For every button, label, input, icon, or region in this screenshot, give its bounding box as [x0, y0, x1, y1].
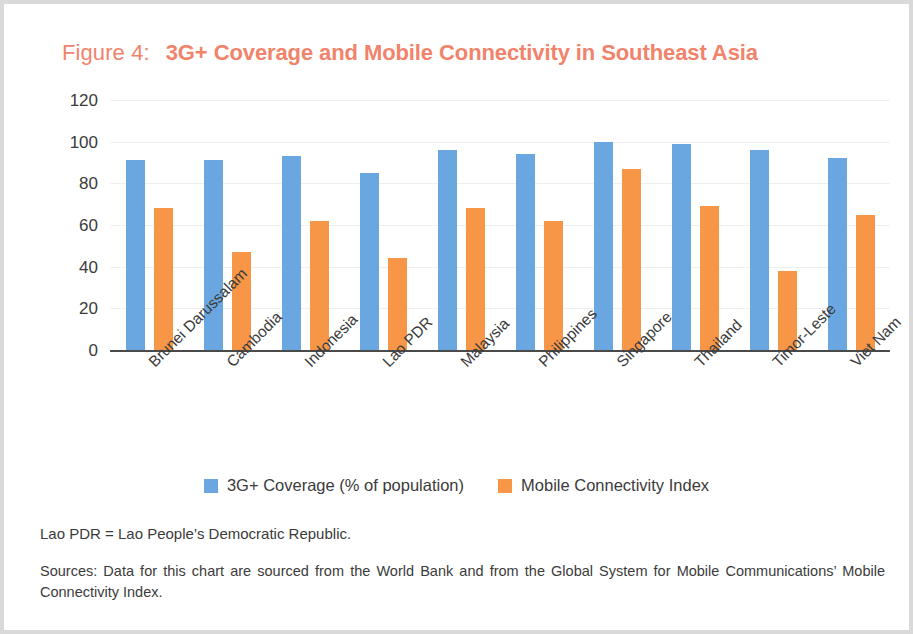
bar-connectivity[interactable]: [466, 208, 485, 350]
x-axis-label-slot: Lao PDR: [344, 352, 422, 470]
figure-border-top: [0, 0, 913, 4]
bar-group: [344, 100, 422, 350]
bar-groups: [110, 100, 890, 350]
y-axis-tick-0: 0: [89, 342, 98, 359]
y-axis-tick-40: 40: [79, 258, 98, 275]
figure-border-left: [0, 0, 4, 634]
y-axis-tick-100: 100: [70, 133, 98, 150]
figure-title-row: Figure 4: 3G+ Coverage and Mobile Connec…: [62, 40, 882, 74]
x-axis-label-slot: Singapore: [578, 352, 656, 470]
legend-item[interactable]: 3G+ Coverage (% of population): [204, 476, 464, 495]
x-axis-label-slot: Thailand: [656, 352, 734, 470]
x-axis-label-slot: Timor-Leste: [734, 352, 812, 470]
bar-group: [422, 100, 500, 350]
y-axis-tick-80: 80: [79, 175, 98, 192]
legend-item[interactable]: Mobile Connectivity Index: [498, 476, 709, 495]
y-axis-tick-60: 60: [79, 217, 98, 234]
figure-container: Figure 4: 3G+ Coverage and Mobile Connec…: [0, 0, 913, 634]
legend-label: Mobile Connectivity Index: [521, 476, 709, 495]
abbreviation-note: Lao PDR = Lao People’s Democratic Republ…: [40, 524, 885, 544]
bar-coverage[interactable]: [126, 160, 145, 350]
x-axis-label-slot: Cambodia: [188, 352, 266, 470]
figure-number-label: Figure 4:: [62, 40, 150, 66]
bar-connectivity[interactable]: [856, 215, 875, 350]
x-axis-label-slot: Malaysia: [422, 352, 500, 470]
figure-title: 3G+ Coverage and Mobile Connectivity in …: [166, 40, 758, 66]
bar-coverage[interactable]: [516, 154, 535, 350]
x-axis-label-slot: Brunei Darussalam: [110, 352, 188, 470]
legend-swatch-icon: [498, 479, 512, 493]
source-note: Sources: Data for this chart are sourced…: [40, 561, 885, 603]
x-axis-labels: Brunei DarussalamCambodiaIndonesiaLao PD…: [110, 352, 890, 470]
bar-connectivity[interactable]: [700, 206, 719, 350]
figure-border-right: [909, 0, 913, 634]
bar-coverage[interactable]: [750, 150, 769, 350]
bar-connectivity[interactable]: [544, 221, 563, 350]
figure-border-bottom: [0, 630, 913, 634]
legend-label: 3G+ Coverage (% of population): [227, 476, 464, 495]
x-axis-label-slot: Philippines: [500, 352, 578, 470]
y-axis-tick-120: 120: [70, 92, 98, 109]
bar-connectivity[interactable]: [154, 208, 173, 350]
bar-group: [734, 100, 812, 350]
chart-legend: 3G+ Coverage (% of population)Mobile Con…: [0, 476, 913, 495]
bar-group: [110, 100, 188, 350]
x-axis-label-slot: Viet Nam: [812, 352, 890, 470]
bar-connectivity[interactable]: [622, 169, 641, 350]
figure-notes: Lao PDR = Lao People’s Democratic Republ…: [40, 524, 885, 603]
bar-coverage[interactable]: [438, 150, 457, 350]
x-axis-label-slot: Indonesia: [266, 352, 344, 470]
y-axis: 120100806040200: [60, 100, 106, 362]
legend-swatch-icon: [204, 479, 218, 493]
bar-connectivity[interactable]: [310, 221, 329, 350]
y-axis-tick-20: 20: [79, 300, 98, 317]
bar-coverage[interactable]: [360, 173, 379, 350]
bar-group: [500, 100, 578, 350]
